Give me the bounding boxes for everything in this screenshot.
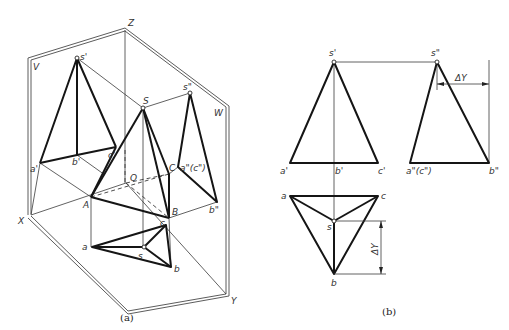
apex-point-s-prime: [75, 56, 79, 60]
subfigure-b: ΔY ΔY s' a' b' c' s" a"(c") b" a c s b (…: [280, 48, 499, 317]
label-C: C: [169, 163, 176, 173]
label-axis-x: X: [17, 216, 25, 226]
label-s-prime-b: s': [329, 48, 336, 58]
label-a-prime-b: a': [280, 166, 288, 176]
label-S: S: [143, 96, 149, 106]
pyramid-projection-figure: V W Z X Y O s' a' b' c' S A B C s" a"(c"…: [0, 0, 509, 330]
apex-point-s-prime-b: [332, 60, 336, 64]
label-s-dprime-a: s": [183, 82, 192, 92]
label-s-prime-a: s': [80, 52, 87, 62]
apex-point-s-b: [332, 219, 336, 223]
label-b-prime-b: b': [335, 166, 343, 176]
label-axis-z: Z: [127, 18, 135, 28]
label-a-prime-a: a': [30, 164, 38, 174]
x-axis-back: [31, 183, 126, 215]
side-view: [410, 62, 489, 163]
label-b-a: b: [174, 264, 180, 274]
label-b-dprime-a: b": [209, 205, 219, 215]
label-s-a: s: [138, 251, 143, 261]
label-c-b: c: [381, 191, 386, 201]
caption-b: (b): [382, 306, 396, 317]
label-a-c-dprime-b: a"(c"): [406, 166, 432, 176]
label-c-a: c: [160, 218, 165, 228]
label-plane-w: W: [214, 108, 224, 118]
apex-point-s: [142, 245, 146, 249]
label-a-b: a: [281, 191, 287, 201]
label-origin-o: O: [130, 173, 137, 183]
apex-point-S: [141, 106, 145, 110]
subfigure-a: V W Z X Y O s' a' b' c' S A B C s" a"(c"…: [17, 18, 238, 323]
label-a-c-dprime-a: a"(c"): [180, 163, 206, 173]
space-pyramid: [91, 108, 169, 218]
label-plane-v: V: [33, 62, 40, 72]
label-a-a: a: [82, 242, 88, 252]
label-s-dprime-b: s": [431, 48, 440, 58]
label-s-b: s: [327, 222, 332, 232]
label-b-prime-a: b': [72, 157, 80, 167]
caption-a: (a): [120, 312, 134, 323]
label-A: A: [82, 200, 89, 210]
y-axis-line: [126, 183, 226, 294]
label-c-prime-a: c': [108, 150, 115, 160]
front-view-on-v-plane: [40, 58, 116, 163]
label-b-b: b: [331, 278, 337, 288]
dimension-delta-y-side: ΔY: [437, 73, 489, 86]
label-b-dprime-b: b": [489, 166, 499, 176]
side-view-on-w-plane: [178, 93, 217, 202]
label-axis-y: Y: [231, 296, 238, 306]
label-c-prime-b: c': [378, 166, 385, 176]
label-B: B: [172, 207, 178, 217]
label-delta-y-top: ΔY: [370, 242, 380, 256]
label-delta-y-side: ΔY: [454, 73, 468, 83]
apex-point-s-dprime-b: [435, 60, 439, 64]
top-view-on-h-plane: [92, 225, 171, 267]
